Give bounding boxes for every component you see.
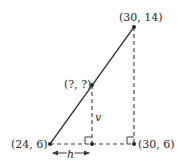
label-start: (24, 6) bbox=[11, 138, 48, 151]
point-start bbox=[48, 142, 52, 146]
label-h: h bbox=[67, 148, 74, 161]
point-end bbox=[132, 25, 136, 29]
label-corner: (30, 6) bbox=[138, 138, 175, 151]
point-corner bbox=[132, 142, 136, 146]
label-v: v bbox=[95, 111, 102, 124]
label-unknown: (?, ?) bbox=[64, 78, 91, 91]
coordinate-diagram: (30, 14) (?, ?) (24, 6) (30, 6) v h bbox=[0, 0, 178, 162]
label-end: (30, 14) bbox=[119, 11, 163, 24]
h-arrow-left-head bbox=[52, 151, 58, 156]
h-arrow-right-head bbox=[84, 151, 90, 156]
point-base-middle bbox=[90, 142, 94, 146]
